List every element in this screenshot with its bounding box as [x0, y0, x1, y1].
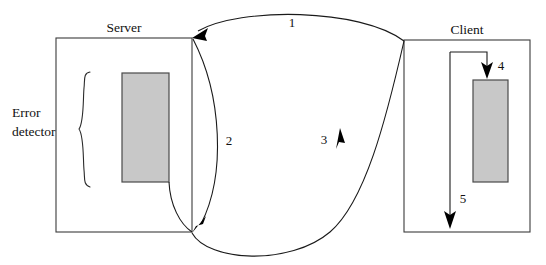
error-detector-label-line2: detector [12, 124, 56, 139]
step-3-label: 3 [321, 132, 328, 147]
flow-diagram: Server Error detector Client 1 2 [0, 0, 546, 265]
diagram-canvas: Server Error detector Client 1 2 [0, 0, 546, 265]
step-2-label: 2 [226, 133, 233, 148]
step-4-label: 4 [498, 58, 505, 73]
error-detector-label-line1: Error [12, 105, 41, 120]
client-memory-block [473, 80, 508, 182]
client-title: Client [451, 22, 484, 37]
server-title: Server [106, 20, 142, 35]
step-1-label: 1 [289, 15, 296, 30]
server-memory-block [122, 73, 169, 182]
step-5-label: 5 [460, 191, 467, 206]
